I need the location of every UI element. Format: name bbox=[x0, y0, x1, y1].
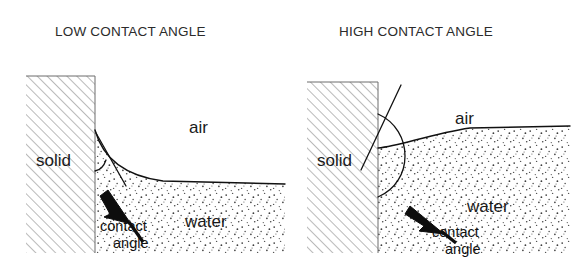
panel-title-high: HIGH CONTACT ANGLE bbox=[339, 24, 493, 39]
panel-low-contact-angle: LOW CONTACT ANGLE solid air water contac… bbox=[26, 24, 287, 255]
callout-contact-high: contact bbox=[432, 224, 479, 240]
contact-angle-diagram: LOW CONTACT ANGLE solid air water contac… bbox=[0, 0, 581, 275]
panel-title-low: LOW CONTACT ANGLE bbox=[55, 24, 206, 39]
panel-high-contact-angle: HIGH CONTACT ANGLE solid air water conta… bbox=[307, 24, 573, 257]
label-water-low: water bbox=[184, 212, 227, 231]
label-air-high: air bbox=[455, 109, 474, 128]
callout-angle-high: angle bbox=[445, 241, 480, 257]
label-solid-low: solid bbox=[36, 151, 71, 170]
label-solid-high: solid bbox=[317, 151, 352, 170]
label-water-high: water bbox=[466, 197, 509, 216]
callout-contact-low: contact bbox=[100, 218, 147, 234]
callout-angle-low: angle bbox=[113, 235, 148, 251]
label-air-low: air bbox=[189, 118, 208, 137]
